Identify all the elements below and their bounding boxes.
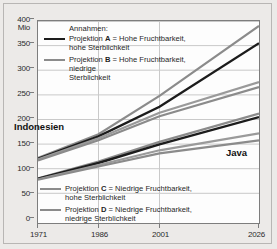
legend-a-line1: Projektion A = Hohe Fruchtbarkeit, [69,34,186,43]
x-tick-1986: 1986 [91,230,108,239]
legend-swatch-a-line-icon [44,38,65,40]
y-tickmark-50 [30,192,34,193]
y-tickmark-100 [30,167,34,168]
y-tick-100: 100 [6,164,30,173]
y-tick-0: 0 [6,214,30,223]
x-tick-2026: 2026 [248,230,265,239]
legend-c-line2: hohe Sterblichkeit [65,193,125,202]
legend-row-projektion-b: Projektion B = Hohe Fruchtbarkeit, niedr… [44,55,186,82]
x-tick-2001: 2001 [152,230,169,239]
legend-row-projektion-c: Projektion C = Niedrige Fruchtbarkeit, h… [40,184,192,202]
y-tickmark-150 [30,142,34,143]
legend-swatch-b-line-icon [44,59,65,61]
legend-d-line2: niedrige Sterblichkeit [65,214,136,223]
y-tick-250: 250 [6,89,30,98]
legend-top: Annahmen: Projektion A = Hohe Fruchtbark… [44,24,186,83]
legend-text-c: Projektion C = Niedrige Fruchtbarkeit, h… [65,184,192,202]
legend-b-line1: Projektion B = Hohe Fruchtbarkeit, [69,55,186,64]
y-tickmark-300 [30,67,34,68]
legend-c-line1: Projektion C = Niedrige Fruchtbarkeit, [65,184,192,193]
y-tickmark-250 [30,92,34,93]
x-tickmark-2026 [258,224,259,228]
x-tickmark-2001 [159,224,160,228]
legend-row-projektion-a: Projektion A = Hohe Fruchtbarkeit, hohe … [44,34,186,52]
legend-row-projektion-d: Projektion D = Niedrige Fruchtbarkeit, n… [40,205,192,223]
y-tickmark-200 [30,117,34,118]
legend-bottom: Projektion C = Niedrige Fruchtbarkeit, h… [40,184,192,224]
region-label-java: Java [226,147,247,158]
legend-text-b: Projektion B = Hohe Fruchtbarkeit, niedr… [69,55,186,82]
legend-text-d: Projektion D = Niedrige Fruchtbarkeit, n… [65,205,192,223]
y-tick-350: 350 [6,39,30,48]
y-tick-150: 150 [6,139,30,148]
legend-text-a: Projektion A = Hohe Fruchtbarkeit, hohe … [69,34,186,52]
y-axis-unit-label: Mio [6,23,30,32]
y-tick-50: 50 [6,189,30,198]
legend-swatch-d-line-icon [40,209,61,211]
legend-b-line2: niedrige [69,64,96,73]
y-tickmark-350 [30,42,34,43]
y-tickmark-400 [30,18,34,19]
legend-d-line1: Projektion D = Niedrige Fruchtbarkeit, [65,205,192,214]
figure-frame: 400 Mio 350 300 250 200 150 100 50 0 [3,3,272,244]
legend-b-line3: Sterblichkeit [69,73,110,82]
y-tick-300: 300 [6,64,30,73]
x-tickmark-1986 [98,224,99,228]
y-tickmark-0 [30,217,34,218]
population-projection-figure: 400 Mio 350 300 250 200 150 100 50 0 [0,0,277,249]
legend-a-line2: hohe Sterblichkeit [69,43,129,52]
legend-title-annahmen: Annahmen: [69,24,186,33]
x-tick-1971: 1971 [30,230,47,239]
x-tickmark-1971 [37,224,38,228]
region-label-indonesien: Indonesien [14,121,64,132]
legend-swatch-c-line-icon [40,188,61,190]
